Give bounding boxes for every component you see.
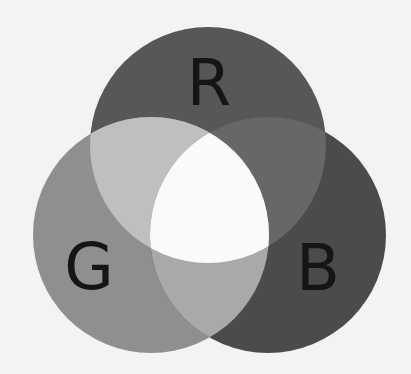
- rgb-venn-diagram: R G B: [0, 0, 411, 374]
- label-b: B: [296, 231, 340, 305]
- label-g: G: [64, 230, 114, 304]
- label-r: R: [187, 46, 231, 120]
